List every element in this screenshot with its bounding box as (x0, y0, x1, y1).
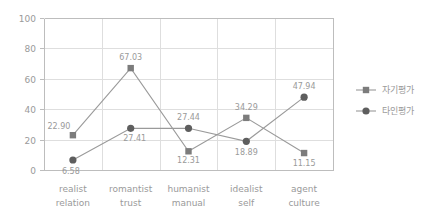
data-point-marker-circle (301, 94, 308, 101)
data-value-label: 18.89 (235, 148, 258, 157)
gridlines (44, 18, 333, 171)
x-axis-category-label: romantist (109, 184, 153, 194)
x-axis-category-label: relation (56, 198, 90, 208)
data-value-label: 67.03 (119, 53, 142, 62)
x-axis-category-label: idealist (230, 184, 263, 194)
data-value-label: 27.44 (177, 113, 200, 122)
legend-marker-square (363, 87, 369, 93)
x-axis-category-label: manual (172, 198, 206, 208)
y-axis-tick-label: 80 (25, 44, 37, 54)
data-value-label: 12.31 (177, 156, 200, 165)
data-point-marker-square (301, 150, 307, 156)
x-axis-category-label: agent (291, 184, 317, 194)
data-value-label: 34.29 (235, 103, 258, 112)
legend-label[interactable]: 자기평가 (382, 85, 414, 95)
data-point-marker-square (185, 148, 191, 154)
data-point-marker-circle (127, 125, 134, 132)
y-axis-tick-label: 100 (19, 14, 36, 24)
x-axis-category-labels: realistrelationromantisttrusthumanistman… (56, 184, 321, 208)
data-point-marker-square (128, 65, 134, 71)
data-value-label: 11.15 (293, 159, 316, 168)
data-value-label: 47.94 (293, 82, 316, 91)
y-axis-tick-label: 60 (25, 75, 37, 85)
x-axis-category-label: realist (59, 184, 87, 194)
data-value-label: 22.90 (47, 122, 70, 131)
data-point-marker-circle (185, 125, 192, 132)
y-axis-tick-label: 40 (25, 105, 37, 115)
axes (40, 19, 334, 171)
data-value-label: 27.41 (123, 134, 146, 143)
x-axis-category-label: trust (120, 198, 142, 208)
data-value-label: 6.58 (62, 167, 80, 176)
x-axis-category-label: culture (288, 198, 320, 208)
legend-label[interactable]: 타인평가 (382, 106, 414, 116)
line-chart: 020406080100 22.9067.0312.3134.2911.156.… (0, 0, 428, 218)
x-axis-category-label: self (238, 198, 255, 208)
y-axis-tick-labels: 020406080100 (19, 14, 36, 176)
legend-marker-circle (362, 107, 369, 114)
data-point-marker-square (70, 132, 76, 138)
chart-container: 020406080100 22.9067.0312.3134.2911.156.… (0, 0, 428, 218)
y-axis-tick-label: 20 (25, 136, 37, 146)
data-point-marker-circle (243, 138, 250, 145)
legend: 자기평가타인평가 (356, 85, 414, 116)
data-point-marker-square (243, 115, 249, 121)
data-point-marker-circle (69, 156, 76, 163)
y-axis-tick-label: 0 (30, 166, 36, 176)
x-axis-category-label: humanist (167, 184, 210, 194)
